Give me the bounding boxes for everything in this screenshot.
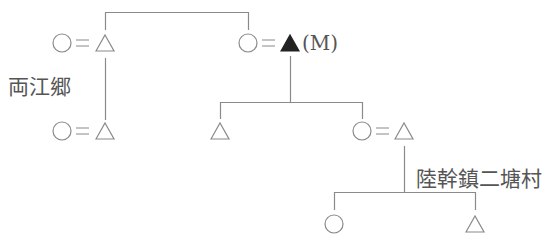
child-row2-male [211, 123, 229, 139]
male-triangle-icon [96, 35, 114, 51]
marriage-equals-icon [262, 40, 275, 46]
sibling-bracket-middle [221, 103, 363, 120]
marriage-equals-icon [76, 128, 89, 134]
female-circle-icon [353, 122, 371, 140]
couple-row2-right [353, 122, 413, 140]
place-label-right: 陸幹鎮二塘村 [416, 162, 542, 192]
male-triangle-icon [96, 123, 114, 139]
male-triangle-icon [395, 123, 413, 139]
couple-row1-right [239, 34, 299, 52]
sibling-bracket-bottom [335, 193, 476, 211]
marriage-equals-icon [76, 40, 89, 46]
subject-filled-triangle-icon [281, 35, 299, 51]
female-circle-icon [53, 34, 71, 52]
sibling-bracket-top [106, 13, 249, 31]
female-circle-icon [53, 122, 71, 140]
male-triangle-icon [466, 216, 484, 232]
female-circle-icon [239, 34, 257, 52]
male-triangle-icon [211, 123, 229, 139]
children-row3 [325, 215, 484, 233]
couple-row2-left [53, 122, 114, 140]
female-circle-icon [325, 215, 343, 233]
place-label-left: 両江郷 [8, 70, 71, 100]
kinship-diagram [0, 0, 547, 245]
marriage-equals-icon [376, 128, 389, 134]
subject-label: (M) [302, 31, 338, 55]
couple-row1-left [53, 34, 114, 52]
